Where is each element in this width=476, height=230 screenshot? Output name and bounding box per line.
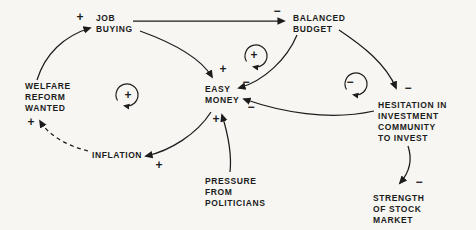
polarity-sign-pressure-to-easy: + xyxy=(212,113,219,125)
node-label-line: JOB xyxy=(96,13,133,24)
node-label-line: REFORM xyxy=(25,92,71,103)
loop-budget-hesitation-easy: − xyxy=(345,73,367,95)
node-label-line: EASY xyxy=(205,84,239,95)
node-label-line: OF STOCK xyxy=(373,204,425,215)
edge-inflation-to-welfare xyxy=(40,121,88,151)
node-pressure-from-politicians: PRESSUREFROMPOLITICIANS xyxy=(205,176,265,209)
polarity-sign-budget-to-easy: − xyxy=(242,76,249,88)
loop-sign-label: + xyxy=(124,88,131,102)
loop-sign-label: + xyxy=(250,48,257,62)
loop-welfare-job-easy-inflation: + xyxy=(116,84,138,106)
node-label-line: BUDGET xyxy=(293,24,346,35)
node-label-line: FROM xyxy=(205,187,265,198)
loop-sign-label: − xyxy=(346,75,353,89)
node-label-line: STRENGTH xyxy=(373,193,425,204)
node-label-line: TO INVEST xyxy=(378,133,447,144)
node-label-line: BUYING xyxy=(96,24,133,35)
node-label-line: WANTED xyxy=(25,103,71,114)
node-label-line: BALANCED xyxy=(293,13,346,24)
edge-hesitation-to-easy xyxy=(244,99,374,115)
node-label-line: PRESSURE xyxy=(205,176,265,187)
causal-loop-diagram: ++− JOBBUYINGBALANCEDBUDGETWELFAREREFORM… xyxy=(0,0,476,230)
node-balanced-budget: BALANCEDBUDGET xyxy=(293,13,346,35)
loop-job-budget-easy: + xyxy=(245,45,267,67)
node-label-line: COMMUNITY xyxy=(378,122,447,133)
node-strength-stock-market: STRENGTHOF STOCKMARKET xyxy=(373,193,425,226)
node-job-buying: JOBBUYING xyxy=(96,13,133,35)
edge-job-to-easy xyxy=(140,31,212,77)
edge-easy-to-inflation xyxy=(146,112,211,156)
node-label-line: HESITATION IN xyxy=(378,100,447,111)
node-inflation: INFLATION xyxy=(92,150,142,161)
edge-hesitation-to-strength xyxy=(400,146,410,183)
node-easy-money: EASYMONEY xyxy=(205,84,239,106)
node-label-line: POLITICIANS xyxy=(205,198,265,209)
edge-pressure-to-easy xyxy=(222,115,230,172)
node-hesitation-investment: HESITATION ININVESTMENTCOMMUNITYTO INVES… xyxy=(378,100,447,144)
polarity-sign-job-to-budget: − xyxy=(273,5,280,17)
polarity-sign-inflation-to-welfare: + xyxy=(27,116,34,128)
polarity-sign-budget-to-hesitation: − xyxy=(404,82,411,94)
polarity-sign-hesitation-to-easy: − xyxy=(247,101,254,113)
node-label-line: INFLATION xyxy=(92,150,142,161)
node-label-line: MARKET xyxy=(373,215,425,226)
polarity-sign-hesitation-to-strength: − xyxy=(415,176,422,188)
node-label-line: INVESTMENT xyxy=(378,111,447,122)
edge-welfare-to-job xyxy=(37,28,90,80)
polarity-sign-welfare-to-job: + xyxy=(76,11,83,23)
polarity-sign-easy-to-inflation: + xyxy=(155,159,162,171)
polarity-sign-job-to-easy: + xyxy=(219,63,226,75)
node-label-line: MONEY xyxy=(205,95,239,106)
node-welfare-reform-wanted: WELFAREREFORMWANTED xyxy=(25,81,71,114)
node-label-line: WELFARE xyxy=(25,81,71,92)
